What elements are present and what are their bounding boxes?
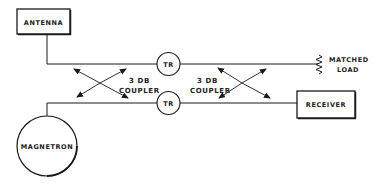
receiver-block: RECEIVER <box>297 91 356 119</box>
tr-bottom-label: TR <box>163 100 174 108</box>
receiver-label: RECEIVER <box>306 101 346 109</box>
duplexer-diagram: ANTENNA TR TR MAGNETRON RECEIVER MATCHED… <box>0 0 376 189</box>
coupler-left-label-1: 3 DB <box>129 77 150 85</box>
tr-top-label: TR <box>163 61 174 69</box>
matched-load: MATCHED LOAD <box>316 55 369 74</box>
magnetron-label: MAGNETRON <box>21 143 74 151</box>
antenna-label: ANTENNA <box>24 19 63 27</box>
resistor-icon <box>316 55 322 74</box>
magnetron-block: MAGNETRON <box>17 116 77 176</box>
matched-load-label-1: MATCHED <box>329 56 369 64</box>
antenna-block: ANTENNA <box>17 9 71 35</box>
tr-bottom: TR <box>157 92 180 115</box>
coupler-right-label-1: 3 DB <box>197 77 218 85</box>
tr-top: TR <box>157 53 180 76</box>
matched-load-label-2: LOAD <box>337 66 359 74</box>
coupler-left-label-2: COUPLER <box>119 87 160 95</box>
coupler-right-label-2: COUPLER <box>190 87 231 95</box>
